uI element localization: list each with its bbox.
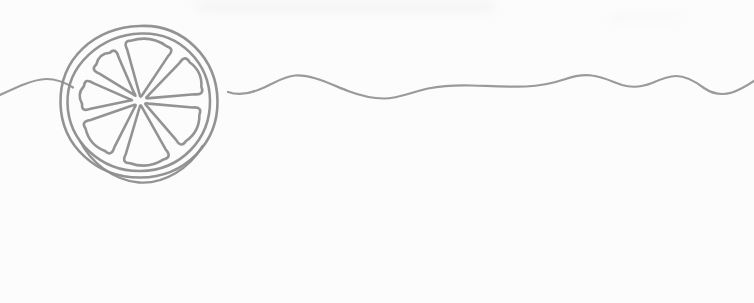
citrus-line-drawing: [0, 0, 754, 303]
citrus-wedge-left: [80, 81, 132, 110]
right-wave-line: [228, 75, 754, 98]
citrus-outer-rim: [60, 26, 217, 178]
artwork-canvas: [0, 0, 754, 303]
citrus-inner-rim: [67, 33, 210, 171]
citrus-wedges: [80, 39, 203, 166]
citrus-wedge-lower-right: [145, 103, 200, 144]
citrus-slice: [60, 26, 217, 183]
